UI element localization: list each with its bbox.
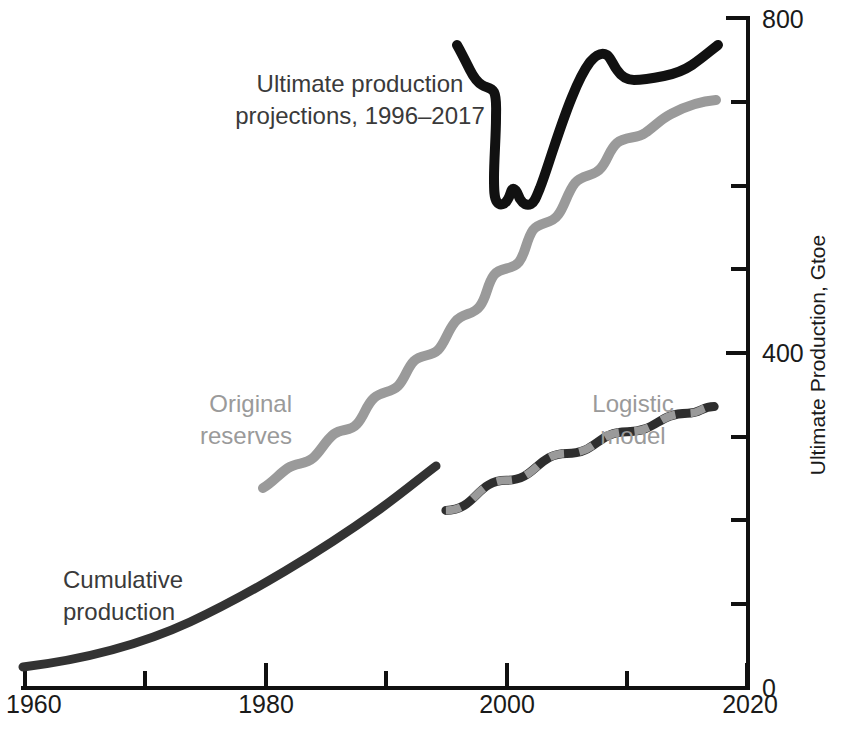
- annotation-projections: Ultimate production projections, 1996–20…: [235, 70, 485, 129]
- annotation-logistic-line2: model: [600, 422, 665, 449]
- y-axis-title: Ultimate Production, Gtoe: [806, 235, 829, 475]
- annotation-cumulative-line2: production: [63, 598, 175, 625]
- annotation-cumulative-line1: Cumulative: [63, 566, 183, 593]
- y-tick-label-800: 800: [762, 5, 804, 33]
- annotation-projections-line1: Ultimate production: [257, 70, 464, 97]
- x-tick-label-1960: 1960: [6, 690, 62, 718]
- annotation-projections-line2: projections, 1996–2017: [235, 102, 485, 129]
- annotation-logistic-line1: Logistic: [592, 390, 673, 417]
- annotation-reserves-line1: Original: [209, 390, 292, 417]
- x-tick-label-1980: 1980: [238, 690, 294, 718]
- logistic-model-dash-overlay: [446, 407, 714, 511]
- y-tick-label-400: 400: [762, 339, 804, 367]
- y-tick-label-0: 0: [762, 674, 776, 702]
- chart-canvas: Ultimate production projections, 1996–20…: [0, 0, 842, 735]
- annotation-reserves-line2: reserves: [200, 422, 292, 449]
- logistic-model-base-line: [446, 407, 714, 511]
- annotation-original-reserves: Original reserves: [200, 390, 292, 449]
- annotation-cumulative-production: Cumulative production: [63, 566, 183, 625]
- chart-figure: Ultimate production projections, 1996–20…: [0, 0, 842, 735]
- x-tick-label-2000: 2000: [479, 690, 535, 718]
